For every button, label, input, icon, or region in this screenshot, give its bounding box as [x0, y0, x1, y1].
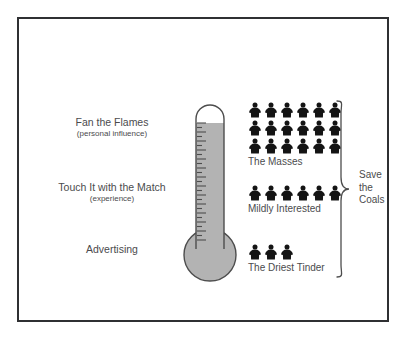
people-pictogram	[248, 244, 325, 261]
person-icon	[248, 138, 262, 154]
person-icon	[264, 102, 278, 118]
stage-label-main: Touch It with the Match	[37, 182, 187, 194]
audience-group-the-driest-tinder: The Driest Tinder	[248, 244, 325, 273]
audience-group-mildly-interested: Mildly Interested	[248, 185, 342, 214]
people-row	[248, 138, 342, 155]
stage-label-fan-the-flames: Fan the Flames (personal influence)	[37, 117, 187, 139]
stage-label-advertising: Advertising	[37, 244, 187, 256]
person-icon	[280, 244, 294, 260]
stage-label-sub: (experience)	[37, 195, 187, 204]
person-icon	[248, 244, 262, 260]
person-icon	[248, 120, 262, 136]
brace-caption-line-3: Coals	[359, 194, 385, 207]
thermometer-graphic	[179, 97, 241, 289]
person-icon	[280, 185, 294, 201]
thermometer-tube-empty	[196, 105, 224, 123]
people-row	[248, 185, 342, 202]
person-icon	[248, 185, 262, 201]
person-icon	[264, 185, 278, 201]
curly-brace-icon	[335, 99, 351, 279]
person-icon	[280, 120, 294, 136]
person-icon	[280, 138, 294, 154]
person-icon	[296, 120, 310, 136]
people-pictogram	[248, 102, 342, 155]
people-row	[248, 102, 342, 119]
person-icon	[312, 185, 326, 201]
audience-group-the-masses: The Masses	[248, 102, 342, 167]
stage-label-touch-it-with-the-match: Touch It with the Match (experience)	[37, 182, 187, 204]
person-icon	[248, 102, 262, 118]
figure-frame: Fan the Flames (personal influence) Touc…	[17, 17, 389, 322]
brace-caption-line-2: the	[359, 182, 385, 195]
person-icon	[264, 120, 278, 136]
brace-caption-save-the-coals: Save the Coals	[359, 169, 385, 207]
stage-label-sub: (personal influence)	[37, 130, 187, 139]
person-icon	[296, 138, 310, 154]
person-icon	[312, 102, 326, 118]
person-icon	[264, 244, 278, 260]
person-icon	[312, 138, 326, 154]
people-row	[248, 120, 342, 137]
person-icon	[264, 138, 278, 154]
person-icon	[296, 102, 310, 118]
group-label: The Driest Tinder	[248, 262, 325, 273]
brace-caption-line-1: Save	[359, 169, 385, 182]
group-label: Mildly Interested	[248, 203, 342, 214]
stage-label-main: Fan the Flames	[37, 117, 187, 129]
stage-label-main: Advertising	[37, 244, 187, 256]
people-pictogram	[248, 185, 342, 202]
person-icon	[312, 120, 326, 136]
person-icon	[296, 185, 310, 201]
person-icon	[280, 102, 294, 118]
figure-canvas: Fan the Flames (personal influence) Touc…	[0, 0, 406, 339]
group-label: The Masses	[248, 156, 342, 167]
people-row	[248, 244, 325, 261]
